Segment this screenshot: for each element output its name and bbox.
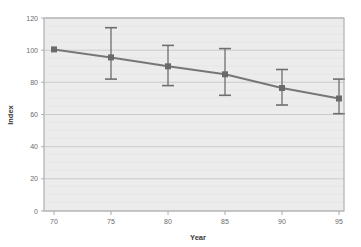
data-point-80 (165, 63, 171, 69)
data-point-75 (108, 54, 114, 60)
x-axis-title: Year (190, 233, 206, 242)
data-point-70 (51, 46, 57, 52)
x-tick-label-90: 90 (278, 218, 286, 225)
y-tick-label-0: 0 (34, 208, 38, 215)
chart-canvas: 120 100 80 60 40 20 0 70 75 80 85 90 95 … (0, 0, 361, 247)
x-tick-label-75: 75 (107, 218, 115, 225)
y-axis-title: Index (6, 104, 15, 124)
chart-container: 120 100 80 60 40 20 0 70 75 80 85 90 95 … (0, 0, 361, 247)
data-point-95 (336, 96, 342, 102)
y-tick-label-20: 20 (30, 175, 38, 182)
y-tick-label-40: 40 (30, 143, 38, 150)
y-tick-label-60: 60 (30, 111, 38, 118)
y-tick-label-120: 120 (26, 15, 38, 22)
x-tick-label-95: 95 (335, 218, 343, 225)
x-tick-label-85: 85 (221, 218, 229, 225)
x-tick-marks (54, 211, 339, 215)
y-tick-label-100: 100 (26, 47, 38, 54)
data-point-85 (222, 71, 228, 77)
y-tick-marks (41, 18, 44, 211)
x-tick-label-80: 80 (164, 218, 172, 225)
x-tick-label-70: 70 (50, 218, 58, 225)
data-point-90 (279, 85, 285, 91)
y-tick-label-80: 80 (30, 79, 38, 86)
